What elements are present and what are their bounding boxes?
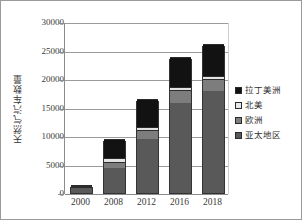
bar-segment-asia bbox=[203, 91, 224, 193]
legend-swatch-icon bbox=[235, 102, 242, 109]
plot-area bbox=[64, 23, 229, 194]
bar-segment-europe bbox=[137, 130, 158, 139]
bar-segment-latam bbox=[137, 99, 158, 127]
legend-item[interactable]: 欧洲 bbox=[235, 113, 299, 128]
legend-label: 北美 bbox=[245, 101, 263, 110]
legend-label: 欧洲 bbox=[245, 116, 263, 125]
bar-segment-latam bbox=[104, 139, 125, 158]
gridline bbox=[65, 194, 228, 195]
chart-frame: 天然气汽车数量 050001000015000200002500030000 2… bbox=[0, 0, 302, 220]
legend-swatch-icon bbox=[235, 117, 242, 124]
chart-legend: 拉丁美洲北美欧洲亚太地区 bbox=[235, 83, 299, 143]
legend-item[interactable]: 北美 bbox=[235, 98, 299, 113]
bar-segment-asia bbox=[104, 168, 125, 193]
bar-segment-latam bbox=[203, 44, 224, 76]
legend-swatch-icon bbox=[235, 132, 242, 139]
bar-segment-europe bbox=[170, 90, 191, 103]
bar-2016[interactable] bbox=[169, 59, 192, 194]
bar-segment-asia bbox=[71, 188, 92, 193]
bar-2012[interactable] bbox=[136, 101, 159, 194]
legend-item[interactable]: 拉丁美洲 bbox=[235, 83, 299, 98]
legend-label: 亚太地区 bbox=[245, 131, 281, 140]
legend-swatch-icon bbox=[235, 87, 242, 94]
bar-segment-asia bbox=[137, 139, 158, 193]
bar-segment-latam bbox=[170, 57, 191, 87]
bar-2000[interactable] bbox=[70, 187, 93, 194]
bar-2018[interactable] bbox=[202, 46, 225, 194]
bar-segment-europe bbox=[203, 79, 224, 91]
gridline bbox=[65, 23, 228, 24]
y-tick-mark bbox=[58, 194, 64, 195]
legend-item[interactable]: 亚太地区 bbox=[235, 128, 299, 143]
bar-segment-asia bbox=[170, 103, 191, 193]
y-axis-title: 天然气汽车数量 bbox=[10, 49, 24, 169]
x-tick-label: 2018 bbox=[193, 197, 233, 207]
bar-2008[interactable] bbox=[103, 141, 126, 194]
legend-label: 拉丁美洲 bbox=[245, 86, 281, 95]
